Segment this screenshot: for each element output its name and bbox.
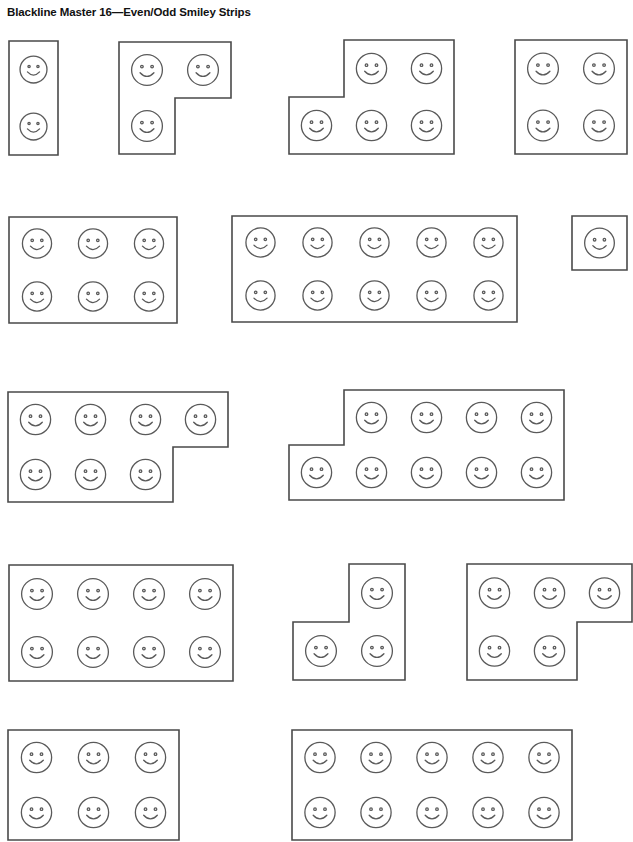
strip-outline (292, 730, 572, 840)
strip-outline (293, 564, 405, 680)
strip-outline (8, 730, 179, 840)
strip-outline (9, 217, 177, 323)
smiley-strip[interactable] (7, 215, 179, 325)
smiley-strip[interactable] (287, 388, 566, 502)
strip-outline (289, 40, 454, 154)
smiley-strip[interactable] (287, 38, 456, 156)
smiley-strip[interactable] (230, 214, 519, 324)
smiley-strip[interactable] (465, 562, 633, 682)
strip-outline (232, 216, 517, 322)
strip-outline (289, 390, 564, 500)
strip-outline (572, 216, 627, 270)
smiley-strip[interactable] (570, 214, 629, 272)
smiley-strip[interactable] (291, 562, 407, 682)
strip-outline (9, 41, 58, 155)
strip-outline (9, 565, 233, 681)
strip-outline (467, 564, 632, 680)
smiley-strip[interactable] (290, 728, 574, 842)
strip-outline (8, 392, 228, 502)
smiley-strip[interactable] (6, 390, 230, 504)
smiley-strip[interactable] (513, 38, 629, 156)
smiley-strip[interactable] (117, 40, 233, 156)
smiley-strip[interactable] (6, 728, 181, 842)
smiley-strip[interactable] (7, 563, 235, 683)
smiley-strip[interactable] (7, 39, 60, 157)
